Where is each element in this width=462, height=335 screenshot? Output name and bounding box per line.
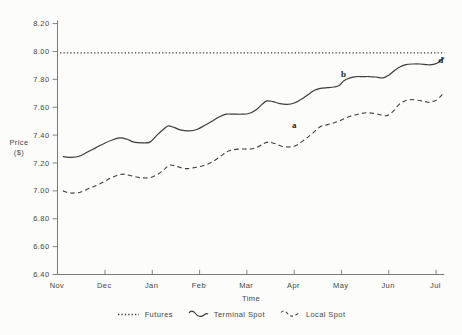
local-spot-line-sample-icon xyxy=(280,309,301,319)
chart-legend: Futures Terminal Spot Local Spot xyxy=(0,309,462,319)
y-axis-title: Price ($) xyxy=(4,138,34,157)
y-tick-label: 8.00 xyxy=(33,47,49,56)
y-tick-label: 6.40 xyxy=(33,270,49,279)
chart-figure: Price ($) 6.406.606.807.007.207.407.607.… xyxy=(0,0,462,335)
x-tick-label: Mar xyxy=(239,281,253,290)
y-axis-title-line1: Price xyxy=(4,138,34,148)
legend-item-futures: Futures xyxy=(117,310,173,319)
legend-item-terminal-spot: Terminal Spot xyxy=(188,309,265,319)
legend-label-local-spot: Local Spot xyxy=(306,310,345,319)
y-tick-label: 7.60 xyxy=(33,103,49,112)
series-line-local-spot xyxy=(63,92,444,193)
price-chart: 6.406.606.807.007.207.407.607.808.008.20… xyxy=(0,0,462,335)
annotation-d: d xyxy=(438,55,443,65)
x-axis-title: Time xyxy=(57,294,445,303)
y-tick-label: 7.40 xyxy=(33,131,49,140)
y-tick-label: 7.80 xyxy=(33,75,49,84)
annotation-a: a xyxy=(292,120,297,130)
x-tick-label: Nov xyxy=(50,281,65,290)
x-tick-label: Dec xyxy=(97,281,112,290)
y-tick-label: 6.60 xyxy=(33,242,49,251)
y-tick-label: 7.20 xyxy=(33,159,49,168)
x-tick-label: Jan xyxy=(145,281,158,290)
y-tick-label: 8.20 xyxy=(33,19,49,28)
annotation-b: b xyxy=(341,69,346,79)
x-tick-label: Jul xyxy=(430,281,441,290)
y-tick-label: 6.80 xyxy=(33,214,49,223)
x-tick-label: Jun xyxy=(381,281,394,290)
terminal-spot-line-sample-icon xyxy=(188,309,209,319)
x-tick-label: May xyxy=(333,281,348,290)
x-tick-label: Apr xyxy=(287,281,300,290)
legend-label-terminal-spot: Terminal Spot xyxy=(214,310,265,319)
y-tick-label: 7.00 xyxy=(33,186,49,195)
x-tick-label: Feb xyxy=(192,281,206,290)
series-line-terminal-spot xyxy=(63,58,444,158)
futures-line-sample-icon xyxy=(117,310,140,319)
legend-label-futures: Futures xyxy=(145,310,173,319)
legend-item-local-spot: Local Spot xyxy=(280,309,345,319)
y-axis-title-line2: ($) xyxy=(4,148,34,158)
